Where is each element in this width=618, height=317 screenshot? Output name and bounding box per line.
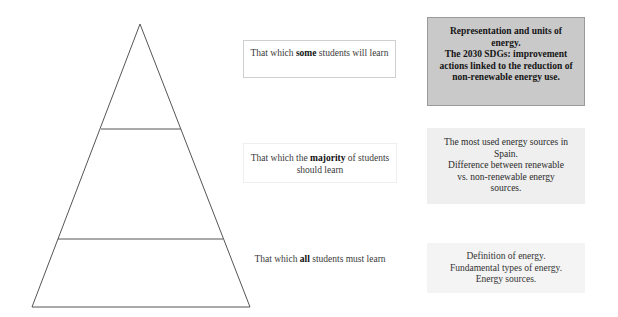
content-line: Definition of energy. — [427, 251, 585, 263]
content-line: non-renewable energy use. — [428, 72, 584, 84]
label-emphasis: some — [296, 48, 317, 58]
label-text: That which — [254, 254, 299, 264]
content-line: The most used energy sources in — [427, 137, 585, 149]
level-label-some: That which some students will learn — [243, 40, 396, 78]
content-box-majority: The most used energy sources in Spain. D… — [427, 128, 585, 204]
content-line: Spain. — [427, 149, 585, 161]
content-line: sources. — [427, 183, 585, 195]
content-line: actions linked to the reduction of — [428, 61, 584, 73]
content-line: Fundamental types of energy. — [427, 263, 585, 275]
content-line: vs. non-renewable energy — [427, 172, 585, 184]
label-text: students must learn — [310, 254, 386, 264]
label-text: students will learn — [316, 48, 388, 58]
label-text: That which the — [251, 153, 310, 163]
content-line: Energy sources. — [427, 274, 585, 286]
label-emphasis: all — [300, 254, 310, 264]
label-text: That which — [251, 48, 296, 58]
content-line: Representation and units of — [428, 26, 584, 38]
content-line: The 2030 SDGs: improvement — [428, 49, 584, 61]
level-label-all: That which all students must learn — [250, 251, 390, 279]
content-box-some: Representation and units of energy. The … — [427, 17, 585, 106]
content-box-all: Definition of energy. Fundamental types … — [427, 243, 585, 293]
content-line: energy. — [428, 38, 584, 50]
label-emphasis: majority — [310, 153, 345, 163]
content-line: Difference between renewable — [427, 160, 585, 172]
pyramid-outline — [32, 24, 250, 307]
level-label-majority: That which the majority of students shou… — [243, 143, 397, 183]
